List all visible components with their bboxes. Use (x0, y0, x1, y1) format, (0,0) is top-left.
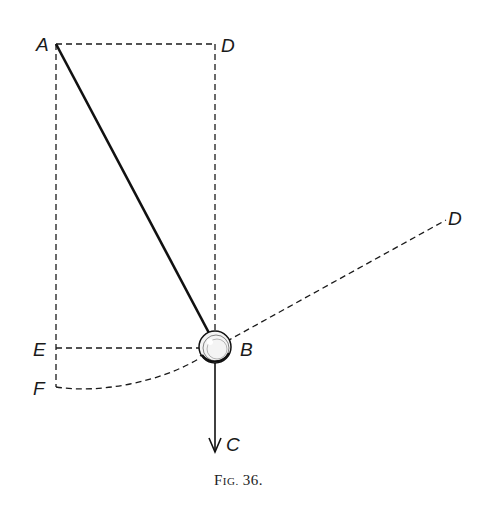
pendulum-diagram: A D D B E F C FIG.36. (0, 0, 488, 512)
label-a: A (35, 34, 49, 55)
dashed-tangent-b-d (200, 220, 446, 356)
label-b: B (240, 339, 253, 360)
dashed-arc-f-b (56, 358, 200, 389)
label-e: E (33, 339, 46, 360)
pendulum-bob (199, 331, 231, 363)
pendulum-rod (56, 44, 209, 333)
figure-caption: FIG.36. (214, 472, 263, 488)
label-d-right: D (448, 208, 462, 229)
label-c: C (226, 434, 240, 455)
label-f: F (33, 378, 46, 399)
label-d-top: D (221, 35, 235, 56)
